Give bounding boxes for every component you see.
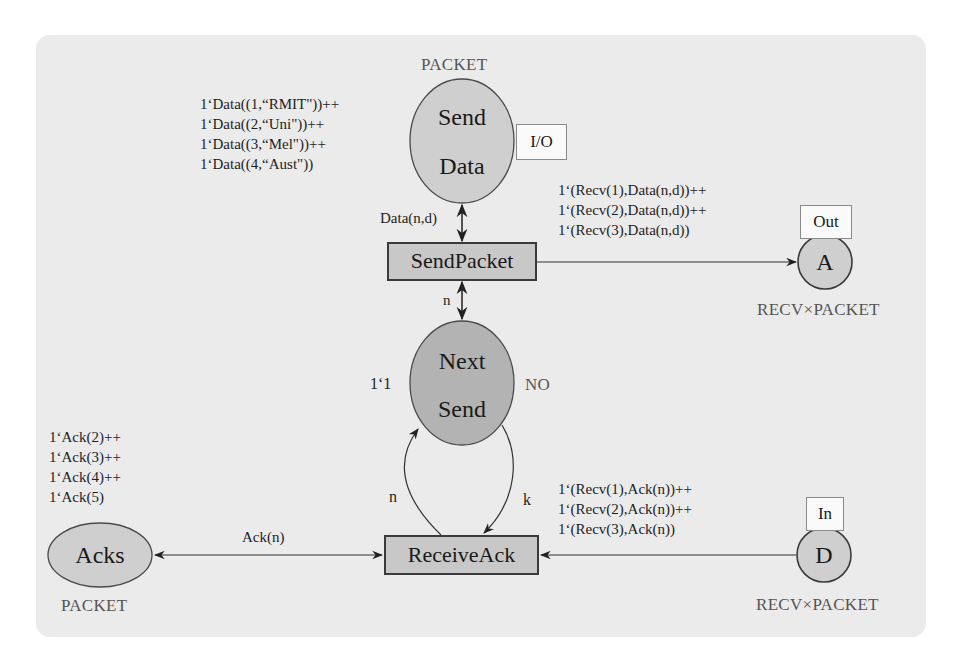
- send-data-label-line1: Send: [410, 105, 514, 129]
- marking-line: 1‘Ack(5): [49, 490, 121, 510]
- place-d-label: D: [797, 543, 851, 567]
- inscription-line: 1‘(Recv(2),Ack(n))++: [558, 502, 692, 522]
- next-send-initial-marking: 1‘1: [370, 376, 391, 392]
- receive-ack-label: ReceiveAck: [385, 544, 538, 566]
- port-tag-out-text: Out: [813, 212, 839, 232]
- place-a-colour-set: RECV×PACKET: [757, 301, 880, 318]
- inscription-line: 1‘(Recv(3),Data(n,d)): [558, 223, 707, 243]
- acks-initial-marking: 1‘Ack(2)++ 1‘Ack(3)++ 1‘Ack(4)++ 1‘Ack(5…: [49, 430, 121, 510]
- place-a-label: A: [798, 250, 852, 274]
- send-data-label-line2: Data: [410, 154, 514, 178]
- marking-line: 1‘Data((3,“Mel"))++: [200, 137, 339, 157]
- arc-label-n-top: n: [443, 293, 451, 308]
- marking-line: 1‘Ack(3)++: [49, 450, 121, 470]
- marking-line: 1‘Ack(4)++: [49, 470, 121, 490]
- port-tag-in-text: In: [818, 504, 832, 524]
- port-tag-io-text: I/O: [530, 132, 553, 152]
- arc-label-n-loop: n: [389, 489, 397, 505]
- marking-line: 1‘Ack(2)++: [49, 430, 121, 450]
- arc-label-data-nd: Data(n,d): [380, 211, 437, 226]
- d-port-tag: In: [806, 497, 844, 531]
- arc-label-ack-n: Ack(n): [242, 530, 284, 545]
- inscription-line: 1‘(Recv(2),Data(n,d))++: [558, 203, 707, 223]
- next-send-label-line1: Next: [410, 349, 514, 373]
- arc-nextsend-receiveack: [484, 425, 513, 533]
- send-packet-label: SendPacket: [388, 250, 536, 272]
- send-data-colour-set: PACKET: [421, 56, 487, 73]
- send-data-initial-marking: 1‘Data((1,“RMIT"))++ 1‘Data((2,“Uni"))++…: [200, 97, 339, 177]
- inscription-line: 1‘(Recv(1),Data(n,d))++: [558, 183, 707, 203]
- inscription-line: 1‘(Recv(3),Ack(n)): [558, 522, 692, 542]
- arc-receiveack-nextsend: [404, 429, 441, 535]
- inscription-line: 1‘(Recv(1),Ack(n))++: [558, 482, 692, 502]
- place-next-send[interactable]: [410, 321, 514, 445]
- next-send-label-line2: Send: [410, 397, 514, 421]
- send-data-port-tag: I/O: [516, 124, 567, 160]
- next-send-colour-set: NO: [525, 376, 550, 393]
- marking-line: 1‘Data((4,“Aust")): [200, 157, 339, 177]
- arc-label-k: k: [523, 492, 531, 508]
- marking-line: 1‘Data((1,“RMIT"))++: [200, 97, 339, 117]
- place-send-data[interactable]: [410, 79, 514, 203]
- place-d-colour-set: RECV×PACKET: [756, 596, 879, 613]
- a-port-tag: Out: [800, 205, 852, 239]
- marking-line: 1‘Data((2,“Uni"))++: [200, 117, 339, 137]
- acks-label: Acks: [48, 543, 152, 567]
- arc-inscription-sendpacket-a: 1‘(Recv(1),Data(n,d))++ 1‘(Recv(2),Data(…: [558, 183, 707, 243]
- arc-inscription-d-receiveack: 1‘(Recv(1),Ack(n))++ 1‘(Recv(2),Ack(n))+…: [558, 482, 692, 542]
- acks-colour-set: PACKET: [61, 597, 127, 614]
